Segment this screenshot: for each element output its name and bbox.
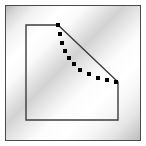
- vertex-handle[interactable]: [56, 23, 60, 27]
- vertex-handle[interactable]: [114, 80, 118, 84]
- vertex-handle[interactable]: [67, 56, 71, 60]
- vertex-handle[interactable]: [87, 72, 91, 76]
- vertex-handle[interactable]: [58, 32, 62, 36]
- gradient-background: [6, 6, 140, 140]
- vertex-handle[interactable]: [78, 68, 82, 72]
- vertex-handle[interactable]: [105, 78, 109, 82]
- polygon-preview-canvas[interactable]: [0, 0, 146, 146]
- outer-frame: [5, 5, 141, 141]
- vertex-handle[interactable]: [72, 62, 76, 66]
- vertex-handle[interactable]: [63, 49, 67, 53]
- vertex-handle[interactable]: [60, 41, 64, 45]
- vertex-handle[interactable]: [96, 76, 100, 80]
